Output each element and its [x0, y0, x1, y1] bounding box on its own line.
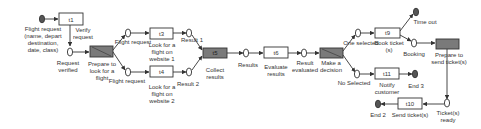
transition-prepare-send [436, 39, 459, 49]
svg-text:t9: t9 [385, 30, 391, 36]
place-result-2 [186, 68, 191, 76]
caption-results: Results [234, 62, 262, 69]
caption-notify-customer: Notify customer [370, 82, 404, 96]
caption-t3: Look for a flight on website 1 [142, 42, 182, 63]
place-result-1 [186, 29, 191, 37]
caption-verify-request: Verify request [68, 27, 98, 41]
place-end-2 [375, 100, 380, 108]
place-tickets-ready [444, 99, 449, 107]
caption-evaluate-results: Evaluate results [261, 64, 291, 78]
svg-text:t4: t4 [159, 69, 165, 75]
caption-make-decision: Make a decision [315, 60, 347, 74]
place-no-selected [354, 70, 359, 78]
svg-text:t10: t10 [406, 101, 415, 107]
place-flight-request-1 [125, 29, 130, 37]
svg-text:t6: t6 [273, 50, 279, 56]
caption-time-out: Time out [410, 19, 440, 26]
place-booking [411, 39, 416, 47]
caption-tickets-ready: Ticket(s) ready [434, 110, 462, 124]
svg-text:t1: t1 [68, 17, 74, 23]
place-time-out [413, 8, 418, 16]
caption-result-1: Result 1 [175, 37, 209, 44]
caption-send-tickets: Send ticket(s) [390, 112, 430, 119]
svg-text:t11: t11 [383, 71, 392, 77]
caption-result-2: Result 2 [171, 81, 205, 88]
caption-booking: Booking [399, 51, 429, 58]
caption-request-verified: Request verified [50, 60, 86, 74]
svg-text:t3: t3 [159, 31, 165, 37]
caption-prepare-send: Prepare to send ticket(s) [428, 52, 470, 66]
place-results [243, 49, 248, 57]
place-request-verified [67, 48, 72, 56]
caption-flight-request: Flight request (name, depart destination… [18, 26, 68, 54]
place-one-selected [355, 29, 360, 37]
caption-end-3: End 3 [404, 83, 428, 90]
start-place [39, 15, 44, 23]
svg-text:t5: t5 [212, 50, 218, 56]
caption-collect-results: Collect results [200, 67, 230, 81]
place-flight-request-2 [125, 68, 130, 76]
place-end-3 [412, 70, 417, 78]
caption-end-2: End 2 [366, 112, 390, 119]
place-result-evaluated [301, 49, 306, 57]
caption-no-selected: No Selected [334, 80, 374, 87]
